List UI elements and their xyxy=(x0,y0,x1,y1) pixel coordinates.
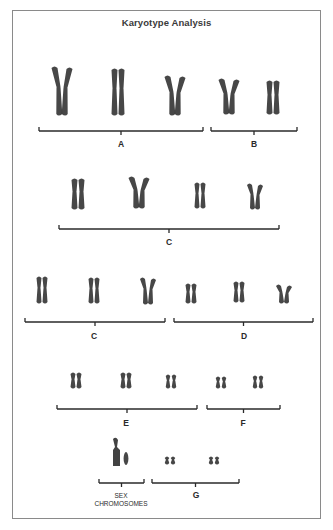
chromosome-pair xyxy=(164,457,177,465)
chromosome-pair xyxy=(215,377,228,389)
group-label-g: G xyxy=(193,490,200,500)
group-bracket-e xyxy=(57,405,197,413)
chromosome-pair xyxy=(120,373,133,389)
group-label-e: E xyxy=(123,418,129,428)
group-bracket-f xyxy=(207,405,280,413)
group-label-c: C xyxy=(166,237,172,247)
chromosome-pair xyxy=(71,179,86,210)
chromosome-pair xyxy=(88,278,101,304)
karyotype-diagram xyxy=(0,0,333,530)
group-bracket-c xyxy=(25,318,165,326)
chromosome-pair xyxy=(233,282,246,303)
group-bracket-d xyxy=(174,318,313,326)
chromosome-pair xyxy=(247,184,263,210)
chromosome-pair xyxy=(219,79,240,115)
chromosome-pair xyxy=(165,76,186,116)
chromosome-pair xyxy=(252,376,265,389)
group-bracket-g xyxy=(152,479,239,487)
group-label-b: B xyxy=(251,139,257,149)
chromosome-pair xyxy=(70,373,83,389)
chromosome-pair xyxy=(194,183,207,209)
group-bracket-a xyxy=(39,127,203,135)
group-label-f: F xyxy=(240,418,245,428)
group-label-d: D xyxy=(241,331,247,341)
chromosome-pair xyxy=(165,375,178,389)
chromosome-pair xyxy=(185,284,198,304)
group-bracket-b xyxy=(211,127,297,135)
chromosome-pair xyxy=(36,277,49,304)
chromosome-pair xyxy=(276,285,292,304)
chromosome-pair xyxy=(129,177,150,209)
chromosome-pair xyxy=(52,67,73,116)
chromosome-pair xyxy=(111,69,126,116)
sex-chromosomes xyxy=(113,438,128,466)
chromosome-pair xyxy=(140,278,156,305)
group-label-a: A xyxy=(118,139,124,149)
sex-chromosomes-label: SEXCHROMOSOMES xyxy=(94,492,147,507)
group-label-c: C xyxy=(91,331,97,341)
sex-chromosomes-bracket xyxy=(99,479,144,487)
chromosome-pair xyxy=(208,457,221,465)
chromosome-pair xyxy=(266,81,281,115)
group-bracket-c xyxy=(59,225,279,233)
